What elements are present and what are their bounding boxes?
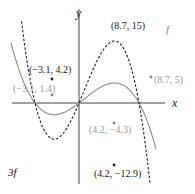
point-3f-max [51,78,54,81]
label-3f-87: (8.7, 15) [111,20,145,32]
label-f-87: (8.7, 5) [154,74,183,86]
curve-3f [22,21,151,183]
point-3f-min [113,164,116,167]
chart: x y (−3.1, 4.2) (−3.1, 1.4) (8.7, 15) (8… [0,0,195,194]
curve-label-f: f [166,23,171,35]
point-f-max [51,94,54,97]
curve-f [11,43,156,149]
x-axis-label: x [171,96,178,110]
label-3f-max: (−3.1, 4.2) [29,64,71,76]
chart-svg: x y (−3.1, 4.2) (−3.1, 1.4) (8.7, 15) (8… [0,0,195,194]
point-f-87 [150,76,153,79]
y-axis-label: y [75,6,82,20]
label-f-max: (−3.1, 1.4) [13,83,55,95]
label-f-min: (4.2, −4.3) [89,124,131,136]
curve-label-3f: 3f [7,166,19,178]
label-3f-min: (4.2, −12.9) [94,168,141,180]
